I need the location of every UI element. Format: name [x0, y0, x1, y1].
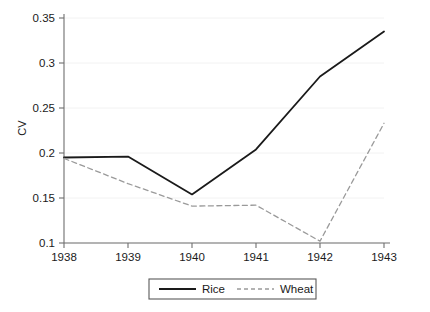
x-tick-label-1939: 1939: [115, 251, 141, 263]
y-tick-label-0.25: 0.25: [33, 102, 55, 114]
y-tick-label-0.2: 0.2: [39, 147, 55, 159]
line-chart: 0.10.150.20.250.30.35 193819391940194119…: [0, 0, 430, 312]
chart-canvas: 0.10.150.20.250.30.35 193819391940194119…: [0, 0, 430, 312]
y-tick-label-0.1: 0.1: [39, 237, 55, 249]
legend: RiceWheat: [149, 279, 316, 299]
x-tick-label-1941: 1941: [243, 251, 269, 263]
x-tick-label-1943: 1943: [371, 251, 397, 263]
x-tick-label-1942: 1942: [307, 251, 333, 263]
y-axis-title: CV: [16, 120, 28, 136]
x-tick-label-1940: 1940: [179, 251, 205, 263]
y-tick-label-0.15: 0.15: [33, 192, 55, 204]
y-tick-label-0.35: 0.35: [33, 12, 55, 24]
x-tick-label-1938: 1938: [51, 251, 77, 263]
legend-label-rice: Rice: [202, 283, 225, 295]
legend-label-wheat: Wheat: [280, 283, 314, 295]
y-tick-label-0.3: 0.3: [39, 57, 55, 69]
